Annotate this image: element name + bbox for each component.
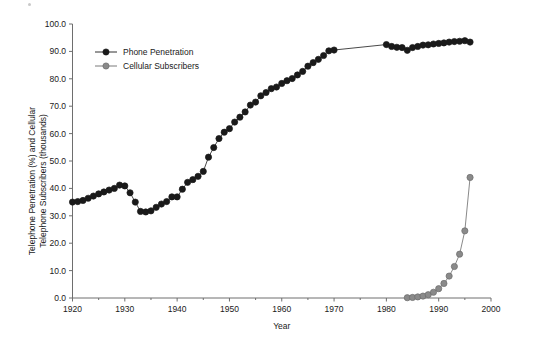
data-point xyxy=(164,198,170,204)
x-tick-label: 1980 xyxy=(377,304,396,314)
x-tick-label: 2000 xyxy=(482,304,501,314)
y-tick-label: 80.0 xyxy=(49,74,66,84)
data-point xyxy=(179,186,185,192)
data-point xyxy=(446,273,452,279)
y-tick-label: 100.0 xyxy=(45,19,67,29)
data-point xyxy=(232,119,238,125)
x-tick-label: 1990 xyxy=(429,304,448,314)
data-point xyxy=(451,263,457,269)
y-tick-label: 0.0 xyxy=(54,293,66,303)
data-point xyxy=(122,183,128,189)
x-axis-title: Year xyxy=(273,321,290,331)
data-point xyxy=(331,47,337,53)
data-point xyxy=(436,286,442,292)
data-point xyxy=(216,135,222,141)
data-point xyxy=(226,126,232,132)
series-line xyxy=(407,177,470,297)
y-tick-label: 60.0 xyxy=(49,129,66,139)
legend-marker xyxy=(103,63,109,69)
y-tick-label: 70.0 xyxy=(49,101,66,111)
y-tick-label: 10.0 xyxy=(49,266,66,276)
legend-marker xyxy=(103,49,109,55)
data-point xyxy=(467,174,473,180)
chart-canvas: 0.010.020.030.040.050.060.070.080.090.01… xyxy=(0,0,535,348)
data-point xyxy=(315,56,321,62)
data-point xyxy=(300,68,306,74)
data-point xyxy=(174,194,180,200)
data-point xyxy=(200,168,206,174)
x-tick-label: 1950 xyxy=(220,304,239,314)
data-point xyxy=(441,280,447,286)
data-point xyxy=(205,154,211,160)
chart-figure: 0.010.020.030.040.050.060.070.080.090.01… xyxy=(0,0,535,348)
x-tick-label: 1960 xyxy=(272,304,291,314)
data-point xyxy=(242,109,248,115)
x-tick-label: 1920 xyxy=(63,304,82,314)
data-point xyxy=(467,39,473,45)
data-point xyxy=(320,52,326,58)
data-point xyxy=(195,173,201,179)
x-tick-label: 1930 xyxy=(115,304,134,314)
x-tick-label: 1940 xyxy=(168,304,187,314)
x-tick-label: 1970 xyxy=(325,304,344,314)
data-point xyxy=(263,89,269,95)
data-point xyxy=(132,199,138,205)
y-axis-title-line1: Telephone Penetration (%) and Cellular xyxy=(27,107,37,256)
data-point xyxy=(211,144,217,150)
data-point xyxy=(252,99,258,105)
legend-label: Phone Penetration xyxy=(123,47,194,57)
data-point xyxy=(237,114,243,120)
y-tick-label: 30.0 xyxy=(49,211,66,221)
legend-label: Cellular Subscribers xyxy=(123,61,199,71)
data-point xyxy=(456,251,462,257)
series-2 xyxy=(404,174,473,301)
data-point xyxy=(462,228,468,234)
y-tick-label: 90.0 xyxy=(49,46,66,56)
data-point xyxy=(127,190,133,196)
y-axis-title-line2: Telephone Subscribers (thousands) xyxy=(38,114,48,248)
y-tick-label: 50.0 xyxy=(49,156,66,166)
y-tick-label: 40.0 xyxy=(49,183,66,193)
y-tick-label: 20.0 xyxy=(49,238,66,248)
